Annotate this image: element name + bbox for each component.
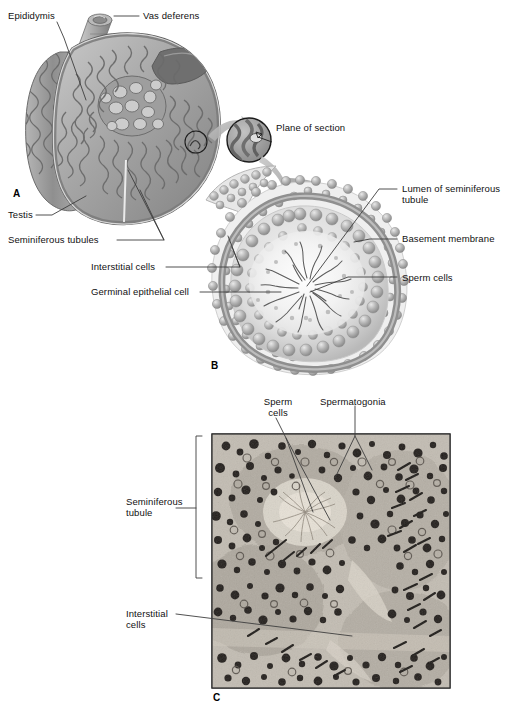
sperm-bundles <box>248 463 441 676</box>
magnify-arrow-a <box>208 116 256 141</box>
label-sperm-cells: Sperm cells <box>402 272 453 283</box>
panel-c-micrograph <box>195 434 460 690</box>
germinal-epithelium <box>229 208 384 356</box>
panel-letter-a: A <box>13 188 20 199</box>
interstitial-cells-ring <box>207 175 408 375</box>
label-sperm-cells-c-line1: Sperm <box>261 396 295 407</box>
magnification-marker <box>185 131 207 153</box>
panel-b-artwork <box>206 166 409 376</box>
label-seminiferous-tubule-c-line1: Seminiferous <box>126 496 183 507</box>
adjacent-tubule-fragment <box>206 166 276 214</box>
label-plane-of-section: Plane of section <box>276 122 345 133</box>
epididymis-art <box>18 50 86 211</box>
label-germinal-epithelial-cell: Germinal epithelial cell <box>91 286 189 297</box>
label-spermatogonia: Spermatogonia <box>320 396 386 407</box>
label-interstitial-cells-b: Interstitial cells <box>91 261 155 272</box>
sperm-cells-art <box>261 242 351 332</box>
nuclei-field <box>211 439 449 686</box>
leader-lines <box>36 16 397 636</box>
label-interstitial-cells-c-line1: Interstitial <box>126 608 168 619</box>
vas-deferens-art <box>62 14 112 96</box>
label-lumen-of-seminiferous-tubule-line2: tubule <box>402 194 428 205</box>
plane-of-section-inset <box>227 118 272 172</box>
label-lumen-of-seminiferous-tubule-line1: Lumen of seminiferous <box>402 183 500 194</box>
panel-letter-b: B <box>211 360 218 371</box>
label-sperm-cells-c-line2: cells <box>261 407 295 418</box>
panel-letter-c: C <box>213 692 220 703</box>
label-epididymis: Epididymis <box>8 10 55 21</box>
testis-art <box>53 33 220 225</box>
figure-artwork <box>0 0 515 711</box>
label-seminiferous-tubule-c-line2: tubule <box>126 507 152 518</box>
label-basement-membrane: Basement membrane <box>402 233 495 244</box>
panel-a-artwork <box>18 14 256 225</box>
label-interstitial-cells-c-line2: cells <box>126 619 146 630</box>
rete-testis <box>98 76 166 136</box>
label-seminiferous-tubules: Seminiferous tubules <box>8 234 99 245</box>
anatomy-figure-plate: Epididymis Vas deferens Testis Seminifer… <box>0 0 515 711</box>
magnify-arrow-b <box>259 156 294 206</box>
label-testis: Testis <box>8 209 33 220</box>
label-vas-deferens: Vas deferens <box>143 10 199 21</box>
